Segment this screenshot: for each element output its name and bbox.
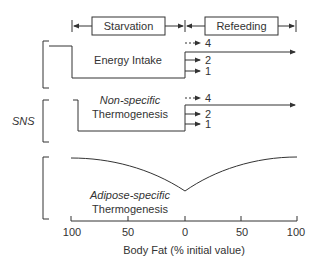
nonspecific-outcome-1-label: 1 — [205, 118, 211, 130]
nonspecific-title-line2: Thermogenesis — [92, 108, 168, 120]
x-axis: 100 50 0 50 100 Body Fat (% initial valu… — [63, 216, 305, 256]
nonspecific-title-line1: Non-specific — [100, 94, 161, 106]
adipose-title-line1: Adipose-specific — [89, 189, 171, 201]
energy-intake-title: Energy Intake — [94, 54, 162, 66]
x-tick-label: 100 — [63, 226, 81, 238]
x-tick-label: 50 — [236, 226, 248, 238]
x-axis-title: Body Fat (% initial value) — [123, 244, 245, 256]
x-tick-label: 100 — [287, 226, 305, 238]
refeeding-label: Refeeding — [216, 20, 266, 32]
sns-label: SNS — [12, 115, 35, 127]
energy-intake-bracket — [43, 41, 49, 88]
nonspecific-bracket — [43, 100, 49, 142]
adipose-thermogenesis-panel: Adipose-specific Thermogenesis — [43, 157, 297, 219]
nonspecific-thermogenesis-panel: Non-specific Thermogenesis 4 2 1 — [43, 92, 295, 142]
energy-outcome-4-label: 4 — [205, 37, 211, 49]
starvation-label: Starvation — [104, 20, 154, 32]
nonspecific-outcome-4-label: 4 — [205, 92, 211, 104]
adipose-title-line2: Thermogenesis — [92, 203, 168, 215]
adipose-bracket — [43, 157, 49, 219]
adipose-curve — [71, 157, 297, 191]
energy-intake-panel: Energy Intake 4 2 1 — [43, 37, 295, 88]
phase-header: Starvation Refeeding — [72, 17, 296, 35]
energy-outcome-1-label: 1 — [205, 65, 211, 77]
x-tick-label: 0 — [182, 226, 188, 238]
thermogenesis-diagram: Starvation Refeeding Energy Intake 4 2 1… — [0, 0, 314, 261]
x-tick-label: 50 — [122, 226, 134, 238]
